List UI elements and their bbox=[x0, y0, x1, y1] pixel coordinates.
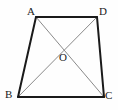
diagonal-AC bbox=[36, 17, 104, 97]
vertex-label-a: A bbox=[27, 6, 35, 17]
vertex-label-b: B bbox=[5, 89, 12, 100]
edge-DC bbox=[97, 17, 104, 97]
vertex-label-d: D bbox=[99, 6, 107, 17]
edge-AB bbox=[18, 17, 36, 97]
geometry-figure: A D B C O bbox=[0, 0, 118, 110]
vertex-label-o: O bbox=[59, 52, 67, 63]
diagonal-BD bbox=[18, 17, 97, 97]
vertex-label-c: C bbox=[105, 90, 112, 101]
